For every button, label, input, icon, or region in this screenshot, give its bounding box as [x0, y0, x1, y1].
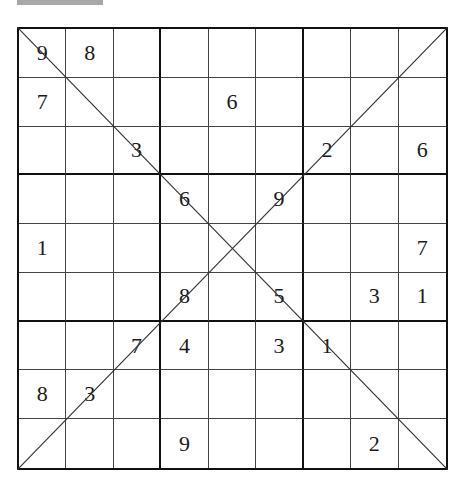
sudoku-cell[interactable]	[66, 273, 113, 322]
sudoku-cell[interactable]	[351, 224, 398, 273]
sudoku-cell[interactable]	[209, 29, 256, 78]
sudoku-cell[interactable]: 1	[304, 322, 351, 371]
sudoku-cell[interactable]	[19, 175, 66, 224]
sudoku-cell[interactable]	[161, 78, 208, 127]
sudoku-cell[interactable]	[114, 419, 161, 468]
sudoku-cell[interactable]	[19, 273, 66, 322]
sudoku-cell[interactable]: 8	[66, 29, 113, 78]
sudoku-cell[interactable]	[114, 224, 161, 273]
sudoku-cell[interactable]	[66, 322, 113, 371]
sudoku-cell[interactable]	[256, 78, 303, 127]
sudoku-cell[interactable]	[209, 370, 256, 419]
sudoku-cell[interactable]	[161, 127, 208, 176]
sudoku-cell[interactable]: 5	[256, 273, 303, 322]
sudoku-cell[interactable]	[66, 175, 113, 224]
sudoku-cell[interactable]: 1	[399, 273, 446, 322]
sudoku-cell[interactable]	[304, 29, 351, 78]
sudoku-cell[interactable]	[399, 370, 446, 419]
sudoku-cell[interactable]: 3	[256, 322, 303, 371]
sudoku-cell[interactable]	[161, 370, 208, 419]
sudoku-cell[interactable]	[256, 127, 303, 176]
sudoku-cell[interactable]	[209, 419, 256, 468]
sudoku-cell[interactable]	[209, 127, 256, 176]
redacted-header-bar	[17, 0, 103, 5]
sudoku-cell[interactable]	[19, 127, 66, 176]
sudoku-cell[interactable]	[399, 175, 446, 224]
sudoku-cell[interactable]	[114, 175, 161, 224]
sudoku-cell[interactable]: 3	[351, 273, 398, 322]
sudoku-cell[interactable]	[351, 127, 398, 176]
sudoku-cell[interactable]	[399, 322, 446, 371]
sudoku-cell[interactable]	[351, 78, 398, 127]
sudoku-cell[interactable]	[256, 419, 303, 468]
sudoku-cell[interactable]	[19, 322, 66, 371]
sudoku-cell[interactable]	[66, 224, 113, 273]
sudoku-cell[interactable]: 7	[399, 224, 446, 273]
sudoku-cell[interactable]	[399, 29, 446, 78]
sudoku-cell[interactable]	[66, 127, 113, 176]
sudoku-grid: 98763266917853174318392	[17, 27, 448, 470]
sudoku-cell[interactable]	[351, 370, 398, 419]
sudoku-cell[interactable]: 2	[351, 419, 398, 468]
sudoku-cell[interactable]	[161, 29, 208, 78]
sudoku-cell[interactable]	[304, 419, 351, 468]
sudoku-cell[interactable]	[209, 175, 256, 224]
sudoku-cell[interactable]	[209, 322, 256, 371]
sudoku-cell[interactable]	[304, 273, 351, 322]
sudoku-cell[interactable]: 2	[304, 127, 351, 176]
sudoku-cell[interactable]: 7	[114, 322, 161, 371]
sudoku-cell[interactable]	[351, 29, 398, 78]
sudoku-cell[interactable]: 6	[399, 127, 446, 176]
sudoku-cell[interactable]: 9	[161, 419, 208, 468]
sudoku-cell[interactable]	[304, 175, 351, 224]
sudoku-cell[interactable]	[351, 322, 398, 371]
sudoku-cell[interactable]: 8	[19, 370, 66, 419]
sudoku-cell[interactable]: 7	[19, 78, 66, 127]
sudoku-cell[interactable]	[351, 175, 398, 224]
sudoku-cell[interactable]	[304, 370, 351, 419]
sudoku-cell[interactable]: 3	[66, 370, 113, 419]
sudoku-cell[interactable]: 1	[19, 224, 66, 273]
sudoku-board: 98763266917853174318392	[17, 27, 448, 470]
sudoku-cell[interactable]	[304, 224, 351, 273]
sudoku-cell[interactable]	[256, 370, 303, 419]
sudoku-cell[interactable]	[66, 419, 113, 468]
sudoku-cell[interactable]: 6	[161, 175, 208, 224]
sudoku-cell[interactable]	[114, 29, 161, 78]
sudoku-cell[interactable]: 4	[161, 322, 208, 371]
sudoku-cell[interactable]	[114, 78, 161, 127]
sudoku-cell[interactable]: 3	[114, 127, 161, 176]
sudoku-cell[interactable]	[66, 78, 113, 127]
sudoku-cell[interactable]	[19, 419, 66, 468]
sudoku-cell[interactable]	[256, 29, 303, 78]
sudoku-cell[interactable]	[209, 273, 256, 322]
sudoku-cell[interactable]: 6	[209, 78, 256, 127]
sudoku-cell[interactable]	[114, 273, 161, 322]
sudoku-cell[interactable]	[114, 370, 161, 419]
sudoku-cell[interactable]	[399, 78, 446, 127]
sudoku-cell[interactable]	[256, 224, 303, 273]
sudoku-cell[interactable]	[304, 78, 351, 127]
sudoku-cell[interactable]: 8	[161, 273, 208, 322]
sudoku-cell[interactable]: 9	[256, 175, 303, 224]
sudoku-cell[interactable]	[161, 224, 208, 273]
sudoku-cell[interactable]	[209, 224, 256, 273]
sudoku-cell[interactable]: 9	[19, 29, 66, 78]
sudoku-cell[interactable]	[399, 419, 446, 468]
